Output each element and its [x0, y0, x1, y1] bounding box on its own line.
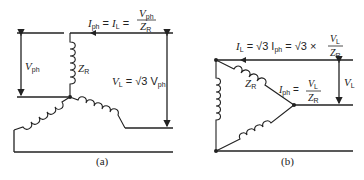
- line-current-arrow-icon: [240, 57, 246, 63]
- iph-equals-il-label: Iph = IL =: [87, 17, 129, 31]
- il-equals-root3-iph-label: IL = √3 Iph = √3 ×: [235, 40, 316, 54]
- svg-text:VL: VL: [308, 78, 318, 90]
- star-coil-vertical: [70, 33, 75, 97]
- delta-vl-label: VL: [344, 76, 355, 89]
- zr-label-delta: ZR: [245, 77, 256, 90]
- svg-text:ZR: ZR: [330, 47, 341, 59]
- star-connection: Iph = IL = Vph ZR Vph ZR VL = √3 Vph (a): [14, 7, 173, 168]
- svg-text:VL: VL: [330, 33, 340, 45]
- current-arrow-icon: [90, 30, 96, 36]
- iph-label-delta: Iph =: [278, 84, 299, 97]
- vl-over-zr-fraction-top: VL ZR: [328, 33, 343, 59]
- svg-text:Vph: Vph: [139, 7, 154, 21]
- vl-over-zr-fraction-mid: VL ZR: [306, 78, 321, 104]
- star-coil-right: [70, 97, 125, 128]
- delta-coil-left: [216, 60, 221, 151]
- caption-b: (b): [281, 155, 294, 168]
- svg-text:ZR: ZR: [308, 92, 319, 104]
- vl-equals-root3-vph-label: VL = √3 Vph: [112, 75, 166, 89]
- zr-label-star: ZR: [78, 62, 89, 75]
- caption-a: (a): [96, 155, 109, 168]
- vph-over-zr-fraction: Vph ZR: [137, 7, 156, 33]
- vph-label: Vph: [25, 60, 40, 74]
- delta-coil-bottom: [216, 105, 294, 151]
- delta-connection: IL = √3 Iph = √3 × VL ZR ZR Iph = VL ZR …: [214, 33, 355, 168]
- star-coil-left: [14, 97, 70, 130]
- svg-text:ZR: ZR: [140, 20, 151, 33]
- three-phase-connection-diagram: Iph = IL = Vph ZR Vph ZR VL = √3 Vph (a)…: [0, 0, 364, 180]
